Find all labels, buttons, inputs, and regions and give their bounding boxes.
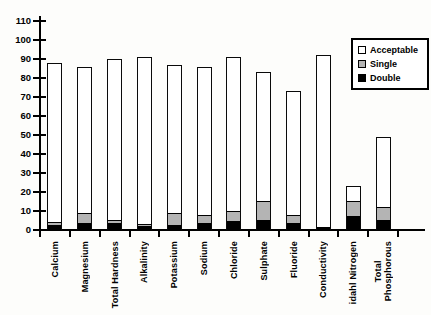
x-tick xyxy=(39,231,41,237)
x-tick xyxy=(308,231,310,237)
y-tick xyxy=(33,39,46,41)
x-category-label: Fluoride xyxy=(289,241,299,278)
y-tick xyxy=(33,96,46,98)
bar-segment-double xyxy=(317,227,330,230)
y-tick-label: 40 xyxy=(7,148,31,160)
bar-segment-acceptable xyxy=(198,68,211,215)
x-category-label: Sodium xyxy=(199,241,209,275)
y-axis-line xyxy=(39,16,41,231)
y-tick-label: 70 xyxy=(7,91,31,103)
y-tick xyxy=(33,153,46,155)
bar-total-hardness xyxy=(107,59,122,230)
bar-conductivity xyxy=(316,55,331,230)
y-tick xyxy=(33,58,46,60)
bar-alkalinity xyxy=(137,57,152,230)
y-tick xyxy=(33,134,46,136)
bar-segment-double xyxy=(227,221,240,230)
x-tick xyxy=(397,231,399,237)
legend-item-double: Double xyxy=(358,72,423,84)
y-tick-label: 80 xyxy=(7,72,31,84)
bar-segment-acceptable xyxy=(287,92,300,214)
bar-segment-double xyxy=(108,223,121,230)
legend-label: Single xyxy=(370,59,397,69)
y-tick-label: 110 xyxy=(7,15,31,27)
bar-segment-acceptable xyxy=(227,58,240,211)
bar-segment-double xyxy=(287,223,300,230)
bar-sulphate xyxy=(256,72,271,230)
bar-segment-acceptable xyxy=(48,64,61,223)
x-tick xyxy=(188,231,190,237)
y-tick xyxy=(33,77,46,79)
x-category-label: idahl Nitrogen xyxy=(348,241,358,304)
y-tick-label: 90 xyxy=(7,53,31,65)
bar-segment-double xyxy=(48,225,61,230)
legend-item-single: Single xyxy=(358,58,423,70)
y-tick-label: 30 xyxy=(7,167,31,179)
y-tick xyxy=(33,210,46,212)
x-tick xyxy=(278,231,280,237)
bar-calcium xyxy=(47,63,62,230)
bar-fluoride xyxy=(286,91,301,230)
y-tick xyxy=(33,115,46,117)
bar-magnesium xyxy=(77,67,92,230)
bar-segment-single xyxy=(347,201,360,215)
x-category-label: Conductivity xyxy=(318,241,328,298)
single-swatch-icon xyxy=(358,60,366,68)
y-tick-label: 60 xyxy=(7,110,31,122)
bar-chloride xyxy=(226,57,241,230)
bar-segment-single xyxy=(78,213,91,224)
x-category-label: Magnesium xyxy=(80,241,90,292)
x-category-label: Total Hardness xyxy=(110,241,120,308)
legend: Acceptable Single Double xyxy=(351,38,429,90)
x-tick xyxy=(69,231,71,237)
bar-segment-single xyxy=(377,207,390,219)
bar-segment-acceptable xyxy=(138,58,151,224)
bar-segment-single xyxy=(168,213,181,225)
bar-segment-double xyxy=(257,220,270,231)
legend-item-acceptable: Acceptable xyxy=(358,44,423,56)
bar-segment-acceptable xyxy=(78,68,91,213)
y-tick-label: 10 xyxy=(7,205,31,217)
bar-segment-acceptable xyxy=(108,60,121,220)
bar-potassium xyxy=(167,65,182,230)
y-tick-label: 100 xyxy=(7,34,31,46)
legend-label: Double xyxy=(370,73,401,83)
stacked-bar-chart: 0102030405060708090100110 CalciumMagnesi… xyxy=(0,0,431,315)
bar-segment-double xyxy=(198,223,211,230)
x-category-label: Total Phosphorous xyxy=(373,241,393,301)
x-tick xyxy=(158,231,160,237)
y-tick-label: 0 xyxy=(7,224,31,236)
x-category-label: Chloride xyxy=(229,241,239,279)
bar-segment-double xyxy=(138,226,151,230)
x-category-label: Potassium xyxy=(169,241,179,288)
x-tick xyxy=(99,231,101,237)
bar-segment-single xyxy=(287,215,300,224)
bar-segment-acceptable xyxy=(257,73,270,201)
bar-segment-double xyxy=(347,216,360,230)
x-tick xyxy=(248,231,250,237)
bar-segment-acceptable xyxy=(168,66,181,213)
x-category-label: Calcium xyxy=(50,241,60,277)
bar-segment-double xyxy=(377,220,390,231)
bar-segment-single xyxy=(257,201,270,219)
x-tick xyxy=(337,231,339,237)
bar-segment-double xyxy=(168,225,181,230)
bar-segment-acceptable xyxy=(377,138,390,207)
bar-segment-acceptable xyxy=(347,187,360,201)
y-tick xyxy=(33,172,46,174)
acceptable-swatch-icon xyxy=(358,46,366,54)
y-tick-label: 50 xyxy=(7,129,31,141)
y-tick-label: 20 xyxy=(7,186,31,198)
legend-label: Acceptable xyxy=(370,45,418,55)
bar-idahl-nitrogen xyxy=(346,186,361,230)
y-tick xyxy=(33,191,46,193)
double-swatch-icon xyxy=(358,74,366,82)
x-tick xyxy=(367,231,369,237)
x-tick xyxy=(218,231,220,237)
bar-segment-single xyxy=(198,215,211,224)
y-tick xyxy=(33,20,46,22)
x-category-label: Alkalinity xyxy=(139,241,149,283)
bar-sodium xyxy=(197,67,212,230)
bar-segment-single xyxy=(227,211,240,222)
x-category-label: Sulphate xyxy=(259,241,269,281)
